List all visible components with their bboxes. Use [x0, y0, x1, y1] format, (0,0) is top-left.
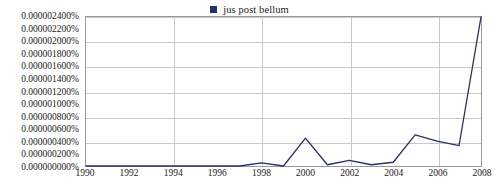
- x-axis-tick: 1996: [208, 168, 227, 179]
- ngram-chart: jus post bellum 0.000002400%0.000002200%…: [0, 0, 499, 188]
- x-axis-tick: 1994: [164, 168, 183, 179]
- y-axis-tick: 0.000001200%: [21, 87, 79, 97]
- y-axis-labels: 0.000002400%0.000002200%0.000002000%0.00…: [0, 16, 82, 167]
- x-axis-labels: 1990199219941996199820002002200420062008: [85, 168, 482, 184]
- x-axis-tick: 2000: [296, 168, 315, 179]
- y-axis-tick: 0.000000600%: [21, 124, 79, 134]
- x-axis-tick: 2006: [428, 168, 447, 179]
- x-axis-tick: 2008: [473, 168, 492, 179]
- legend-label: jus post bellum: [223, 4, 289, 15]
- y-axis-tick: 0.000000800%: [21, 112, 79, 122]
- y-axis-tick: 0.000000000%: [21, 162, 79, 172]
- x-axis-tick: 2004: [384, 168, 403, 179]
- y-axis-tick: 0.000002000%: [21, 36, 79, 46]
- series-line-jus-post-bellum: [86, 17, 481, 166]
- x-axis-tick: 2002: [340, 168, 359, 179]
- x-axis-tick: 1998: [252, 168, 271, 179]
- x-axis-tick: 1990: [76, 168, 95, 179]
- legend-swatch-icon: [210, 6, 217, 13]
- y-axis-tick: 0.000000400%: [21, 137, 79, 147]
- y-axis-tick: 0.000002400%: [21, 11, 79, 21]
- y-axis-tick: 0.000000200%: [21, 149, 79, 159]
- y-axis-tick: 0.000002200%: [21, 24, 79, 34]
- y-axis-tick: 0.000001400%: [21, 74, 79, 84]
- x-axis-tick: 1992: [120, 168, 139, 179]
- y-axis-tick: 0.000001000%: [21, 99, 79, 109]
- y-axis-tick: 0.000001600%: [21, 61, 79, 71]
- plot-area: [85, 16, 482, 167]
- y-axis-tick: 0.000001800%: [21, 49, 79, 59]
